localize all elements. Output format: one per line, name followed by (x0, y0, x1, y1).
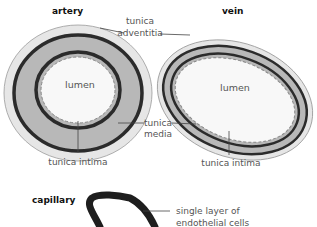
artery-lumen-label: lumen (65, 79, 95, 90)
artery-title: artery (52, 6, 83, 16)
media-label-line2: media (144, 129, 172, 139)
capillary-label-line2: endothelial cells (176, 218, 250, 227)
vein-lumen-label: lumen (220, 82, 250, 93)
capillary-label-line1: single layer of (176, 206, 240, 216)
media-label-line1: tunica (144, 118, 172, 128)
adventitia-label-line2: adventitia (117, 28, 162, 38)
vein-cross-section (140, 19, 317, 181)
adventitia-label-line1: tunica (126, 16, 154, 26)
vein-title: vein (222, 6, 243, 16)
blood-vessel-diagram: artery lumen vein lumen tunica adventiti… (0, 0, 317, 227)
adventitia-leader-vein (160, 34, 190, 35)
intima-label-vein: tunica intima (201, 158, 260, 168)
capillary-title: capillary (32, 195, 76, 205)
intima-label-artery: tunica intima (48, 157, 107, 167)
